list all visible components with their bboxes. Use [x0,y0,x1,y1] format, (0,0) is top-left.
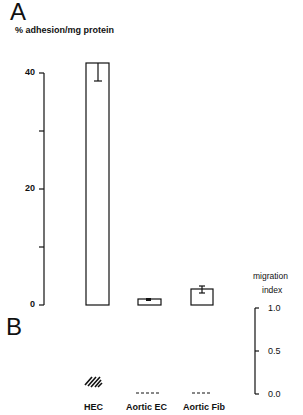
y-axis-label-b-2: index [262,285,282,295]
category-hec: HEC [84,402,103,412]
chart-a [0,0,303,415]
y2-tick-0: 0.0 [268,389,281,399]
hatch-marker [85,377,102,387]
panel-b-label: B [6,313,22,341]
y2-tick-1: 1.0 [268,303,281,313]
y-tick-20: 20 [15,183,35,193]
category-aortic-ec: Aortic EC [126,402,167,412]
y-tick-40: 40 [15,67,35,77]
y2-tick-05: 0.5 [268,346,281,356]
y-axis-label-b-1: migration [253,271,288,281]
category-aortic-fib: Aortic Fib [183,402,225,412]
y-tick-0: 0 [15,299,35,309]
